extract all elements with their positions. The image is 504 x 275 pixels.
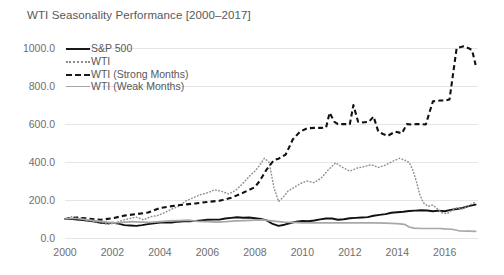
legend-swatch-0 [66, 48, 90, 50]
legend-swatch-2 [66, 74, 90, 76]
x-tick-label: 2010 [291, 246, 315, 258]
y-tick-label: 600.0 [29, 118, 55, 130]
chart-container: WTI Seasonality Performance [2000–2017] … [0, 0, 504, 275]
x-tick-label: 2016 [433, 246, 457, 258]
legend-swatch-3 [66, 86, 90, 87]
legend-label-1: WTI [91, 55, 110, 67]
x-tick-label: 2004 [148, 246, 172, 258]
x-tick-label: 2008 [243, 246, 267, 258]
legend-swatch-1 [66, 61, 90, 63]
x-tick-label: 2014 [386, 246, 410, 258]
x-axis-tick-labels: 200020022004200620082010201220142016 [53, 246, 456, 258]
y-tick-label: 0.0 [40, 232, 55, 244]
y-tick-label: 400.0 [29, 156, 55, 168]
y-axis-tick-labels: 0.0200.0400.0600.0800.01000.0 [23, 42, 55, 244]
x-tick-label: 2012 [338, 246, 362, 258]
legend-label-0: S&P 500 [91, 42, 132, 54]
x-tick-label: 2006 [196, 246, 220, 258]
y-tick-label: 800.0 [29, 80, 55, 92]
chart-plot-area: 0.0200.0400.0600.0800.01000.0 2000200220… [0, 0, 504, 275]
x-tick-label: 2000 [53, 246, 77, 258]
legend-label-3: WTI (Weak Months) [91, 80, 184, 92]
y-tick-label: 1000.0 [23, 42, 55, 54]
y-tick-label: 200.0 [29, 194, 55, 206]
legend-label-2: WTI (Strong Months) [91, 68, 188, 80]
x-tick-label: 2002 [101, 246, 125, 258]
